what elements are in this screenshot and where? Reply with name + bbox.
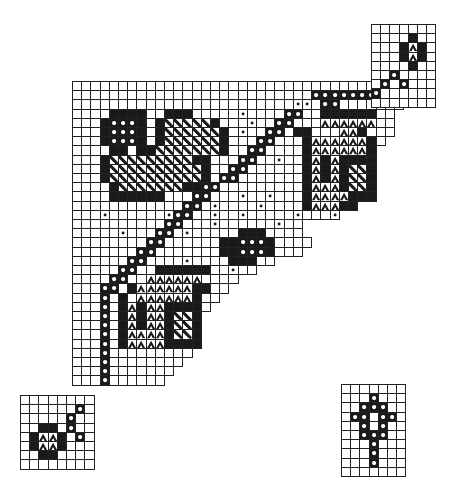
arch-triangle-icon [312,202,320,210]
open-circle-icon [331,100,339,108]
open-circle-icon [321,91,329,99]
diagonal-hatch-icon [128,183,136,191]
diagonal-hatch-icon [110,165,118,173]
open-circle-icon [174,220,182,228]
arch-triangle-icon [147,275,155,283]
diagonal-hatch-icon [165,146,173,154]
diagonal-hatch-icon [119,165,127,173]
open-circle-icon [220,174,228,182]
open-circle-icon [340,91,348,99]
diagonal-hatch-icon [128,165,136,173]
diagonal-hatch-icon [183,137,191,145]
diagonal-hatch-icon [174,183,182,191]
arch-triangle-icon [349,119,357,127]
dot-icon [239,211,247,219]
open-circle-icon [101,312,109,320]
arch-triangle-icon [165,275,173,283]
arch-triangle-icon [321,119,329,127]
open-circle-icon [360,413,368,421]
arch-triangle-icon [409,53,417,61]
dot-icon [257,202,265,210]
diagonal-hatch-icon [165,156,173,164]
arch-triangle-icon [128,303,136,311]
open-circle-icon [360,431,368,439]
open-circle-icon [193,192,201,200]
diagonal-hatch-icon [137,183,145,191]
diagonal-hatch-icon [165,119,173,127]
grid-cell-filled [348,201,358,211]
open-circle-icon [400,80,408,88]
grid-cell-empty [247,265,257,275]
diagonal-hatch-icon [165,128,173,136]
open-circle-icon [183,202,191,210]
diagonal-hatch-icon [202,128,210,136]
arch-triangle-icon [340,128,348,136]
open-circle-icon [101,358,109,366]
dot-icon [294,211,302,219]
dot-icon [248,119,256,127]
open-circle-icon [239,165,247,173]
open-circle-icon [294,110,302,118]
arch-triangle-icon [331,137,339,145]
diagonal-hatch-icon [183,312,191,320]
diagonal-hatch-icon [174,174,182,182]
open-circle-icon [101,349,109,357]
open-circle-icon [229,165,237,173]
open-circle-icon [379,403,387,411]
dot-icon [239,192,247,200]
arch-triangle-icon [312,165,320,173]
arch-triangle-icon [193,275,201,283]
arch-triangle-icon [147,312,155,320]
diagonal-hatch-icon [183,146,191,154]
open-circle-icon [101,376,109,384]
open-circle-icon [370,440,378,448]
arch-triangle-icon [183,284,191,292]
open-circle-icon [128,137,136,145]
diagonal-hatch-icon [128,156,136,164]
dot-icon [266,192,274,200]
arch-triangle-icon [312,146,320,154]
arch-triangle-icon [312,137,320,145]
dot-icon [331,211,339,219]
diagonal-hatch-icon [165,174,173,182]
diagonal-hatch-icon [156,146,164,154]
open-circle-icon [370,449,378,457]
grid-cell-empty [376,136,386,146]
arch-triangle-icon [49,442,57,450]
arch-triangle-icon [137,330,145,338]
open-circle-icon [110,137,118,145]
arch-triangle-icon [137,284,145,292]
open-circle-icon [372,89,380,97]
arch-triangle-icon [331,202,339,210]
open-circle-icon [119,119,127,127]
open-circle-icon [76,405,84,413]
grid-cell-empty [84,459,94,469]
arch-triangle-icon [331,174,339,182]
arch-triangle-icon [156,330,164,338]
diagonal-hatch-icon [183,165,191,173]
grid-cell-small-dot [330,210,340,220]
open-circle-icon [285,110,293,118]
open-circle-icon [110,284,118,292]
diagonal-hatch-icon [349,165,357,173]
open-circle-icon [381,80,389,88]
diagonal-hatch-icon [147,183,155,191]
open-circle-icon [110,119,118,127]
open-circle-icon [110,275,118,283]
open-circle-icon [165,220,173,228]
dot-icon [303,100,311,108]
dot-icon [294,100,302,108]
grid-cell-empty [173,357,183,367]
arch-triangle-icon [39,433,47,441]
diagonal-hatch-icon [202,137,210,145]
grid-cell-empty [265,256,275,266]
diagonal-hatch-icon [183,330,191,338]
open-circle-icon [321,100,329,108]
open-circle-icon [239,248,247,256]
arch-triangle-icon [156,340,164,348]
diagonal-hatch-icon [174,312,182,320]
arch-triangle-icon [128,330,136,338]
open-circle-icon [119,266,127,274]
open-circle-icon [239,238,247,246]
open-circle-icon [257,238,265,246]
